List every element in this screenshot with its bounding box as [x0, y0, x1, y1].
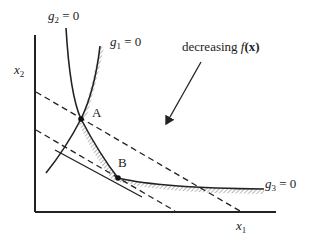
decreasing-f-arrow: [166, 62, 201, 124]
g1-label: g1 = 0: [110, 35, 141, 48]
level-set-upper: [36, 92, 240, 211]
decreasing-f-label: decreasing f(x): [182, 40, 260, 53]
point-b-label: B: [118, 156, 127, 169]
x-axis-label: x1: [236, 219, 246, 232]
level-set-lower: [36, 130, 175, 211]
point-a: [78, 116, 84, 122]
diagram-canvas: [0, 0, 310, 242]
g2-label: g2 = 0: [48, 9, 79, 22]
point-b: [115, 175, 121, 181]
point-a-label: A: [92, 106, 101, 119]
g2-curve: [66, 28, 118, 178]
g3-label: g3 = 0: [265, 177, 296, 190]
y-axis-label: x2: [14, 63, 24, 76]
